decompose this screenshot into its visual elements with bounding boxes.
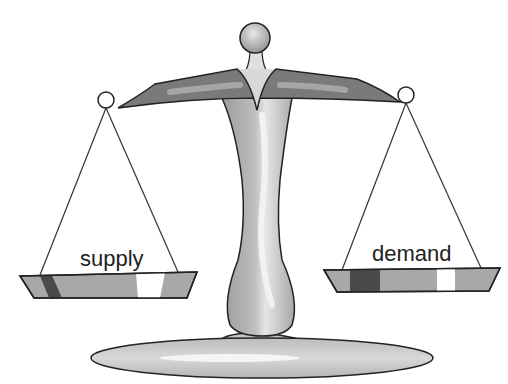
scale-top-knob — [240, 23, 270, 70]
supply-label: supply — [80, 246, 144, 271]
left-hook-ring — [98, 92, 114, 108]
balance-scale-illustration: supply demand — [0, 0, 508, 384]
scale-base — [91, 333, 433, 378]
scale-beam — [118, 69, 400, 110]
right-hook-ring — [398, 87, 414, 103]
scale-column — [222, 98, 294, 336]
demand-label: demand — [372, 241, 452, 266]
